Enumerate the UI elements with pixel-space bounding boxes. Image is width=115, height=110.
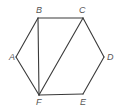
hexagon-diagram: A B C D E F bbox=[0, 0, 115, 110]
edge-d-e bbox=[83, 57, 104, 94]
edge-f-a bbox=[16, 57, 39, 95]
edge-c-d bbox=[83, 18, 104, 57]
edges-group bbox=[16, 18, 104, 95]
vertex-label-f: F bbox=[36, 97, 42, 107]
vertex-label-c: C bbox=[79, 5, 86, 15]
diagonal-c-f bbox=[39, 18, 83, 95]
vertex-label-e: E bbox=[80, 97, 87, 107]
vertex-label-a: A bbox=[8, 52, 15, 62]
edge-e-f bbox=[39, 94, 83, 95]
vertex-label-d: D bbox=[107, 52, 114, 62]
edge-a-b bbox=[16, 18, 38, 57]
vertex-label-b: B bbox=[36, 5, 42, 15]
diagonal-b-f bbox=[38, 18, 39, 95]
